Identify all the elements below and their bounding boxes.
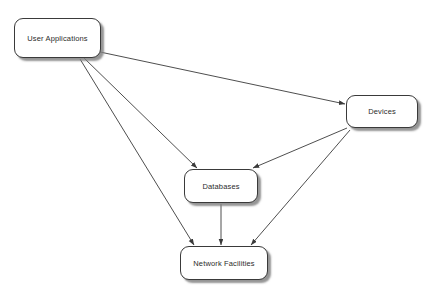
node-label-network-facilities: Network Facilities bbox=[193, 259, 254, 268]
edges-group bbox=[80, 52, 350, 245]
node-devices[interactable]: Devices bbox=[346, 95, 418, 128]
node-databases[interactable]: Databases bbox=[184, 169, 258, 203]
node-label-devices: Devices bbox=[368, 107, 396, 116]
diagram-canvas: User ApplicationsDevicesDatabasesNetwork… bbox=[0, 0, 441, 302]
node-user-applications[interactable]: User Applications bbox=[14, 18, 101, 58]
node-label-databases: Databases bbox=[202, 182, 239, 191]
edge-user-applications-to-network-facilities bbox=[80, 59, 194, 245]
edge-devices-to-databases bbox=[253, 128, 347, 168]
edge-user-applications-to-devices bbox=[100, 52, 345, 104]
edge-user-applications-to-databases bbox=[84, 58, 197, 168]
node-network-facilities[interactable]: Network Facilities bbox=[180, 246, 268, 280]
edge-devices-to-network-facilities bbox=[251, 130, 350, 245]
node-label-user-applications: User Applications bbox=[27, 34, 88, 43]
